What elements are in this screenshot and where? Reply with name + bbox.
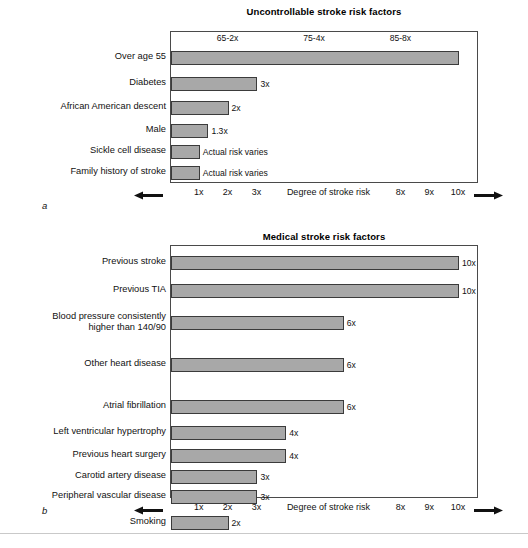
axis-tick-label: 3x	[252, 187, 262, 197]
axis-tick-label: 1x	[194, 187, 204, 197]
chart-a-axis: 1x2x3x8x9x10xDegree of stroke risk	[0, 187, 528, 203]
axis-right-arrow-icon	[473, 506, 503, 514]
bar-value-label: 1.3x	[208, 126, 227, 136]
bar-row: 6x	[171, 358, 477, 372]
axis-right-arrow-icon	[473, 191, 503, 199]
bar-row: 4x	[171, 426, 477, 440]
bar	[171, 101, 229, 115]
bar-value-label: 2x	[229, 518, 241, 528]
bar-row: Actual risk varies	[171, 166, 477, 180]
bar-value-label: 4x	[286, 428, 298, 438]
panel-a-letter: a	[42, 200, 47, 211]
category-label: Left ventricular hypertrophy	[2, 426, 166, 437]
bar-value-label: 6x	[344, 318, 356, 328]
chart-a-plot-area: 3x2x1.3xActual risk variesActual risk va…	[170, 31, 478, 183]
category-label: Blood pressure consistentlyhigher than 1…	[2, 311, 166, 334]
bar-value-label: 4x	[286, 451, 298, 461]
bar-row	[171, 51, 477, 65]
category-label: Other heart disease	[2, 358, 166, 369]
bar-row: 3x	[171, 470, 477, 484]
category-label: Previous heart surgery	[2, 449, 166, 460]
category-label: Carotid artery disease	[2, 470, 166, 481]
axis-title: Degree of stroke risk	[287, 502, 370, 512]
bar-value-label: 10x	[459, 258, 476, 268]
chart-a-bars: 3x2x1.3xActual risk variesActual risk va…	[171, 32, 477, 182]
bar	[171, 77, 257, 91]
bar	[171, 470, 257, 484]
caption-divider	[0, 533, 528, 534]
panel-b-letter: b	[42, 505, 47, 516]
axis-left-arrow-icon	[134, 506, 164, 514]
top-axis-annotation: 85-8x	[390, 33, 412, 43]
bar-value-label: 6x	[344, 360, 356, 370]
category-label: Sickle cell disease	[2, 145, 166, 156]
axis-tick-label: 9x	[424, 187, 434, 197]
category-label: Family history of stroke	[2, 166, 166, 177]
category-label: Previous stroke	[2, 256, 166, 267]
bar-row: 2x	[171, 101, 477, 115]
stroke-risk-figure: Uncontrollable stroke risk factors 3x2x1…	[0, 0, 528, 548]
chart-a-title: Uncontrollable stroke risk factors	[170, 6, 478, 17]
bar	[171, 316, 344, 330]
bar-row: 1.3x	[171, 124, 477, 138]
chart-b-axis: 1x2x3x8x9x10xDegree of stroke risk	[0, 502, 528, 518]
category-label: Previous TIA	[2, 284, 166, 295]
axis-tick-label: 8x	[396, 502, 406, 512]
chart-b-plot-area: 10x10x6x6x6x4x4x3x3x2x	[170, 245, 478, 498]
bar-row: 6x	[171, 316, 477, 330]
axis-tick-label: 10x	[451, 187, 466, 197]
bar	[171, 166, 200, 180]
axis-left-arrow-icon	[134, 191, 164, 199]
bar	[171, 124, 208, 138]
bar-row: 4x	[171, 449, 477, 463]
bar-row: 6x	[171, 400, 477, 414]
bar-value-label: 6x	[344, 402, 356, 412]
axis-tick-label: 1x	[194, 502, 204, 512]
bar	[171, 400, 344, 414]
axis-title: Degree of stroke risk	[287, 187, 370, 197]
category-label: Diabetes	[2, 77, 166, 88]
bar	[171, 256, 459, 270]
bar	[171, 284, 459, 298]
bar-row: 10x	[171, 284, 477, 298]
bar	[171, 449, 286, 463]
bar	[171, 358, 344, 372]
axis-tick-label: 3x	[252, 502, 262, 512]
chart-b-bars: 10x10x6x6x6x4x4x3x3x2x	[171, 246, 477, 497]
bar-value-label: 3x	[257, 492, 269, 502]
category-label: Over age 55	[2, 51, 166, 62]
bar-row: 2x	[171, 516, 477, 530]
chart-b-title: Medical stroke risk factors	[170, 231, 478, 242]
axis-tick-label: 9x	[424, 502, 434, 512]
bar-row: Actual risk varies	[171, 145, 477, 159]
bar-value-label: 10x	[459, 286, 476, 296]
top-axis-annotation: 65-2x	[217, 33, 239, 43]
category-label: Atrial fibrillation	[2, 400, 166, 411]
bar	[171, 516, 229, 530]
axis-tick-label: 2x	[223, 187, 233, 197]
category-label: Peripheral vascular disease	[2, 490, 166, 501]
axis-tick-label: 2x	[223, 502, 233, 512]
bar-value-label: Actual risk varies	[200, 168, 268, 178]
bar	[171, 51, 459, 65]
category-label: Smoking	[2, 516, 166, 527]
bar	[171, 426, 286, 440]
bar-value-label: 3x	[257, 472, 269, 482]
category-label: African American descent	[2, 101, 166, 112]
bar-value-label: 2x	[229, 103, 241, 113]
top-axis-annotation: 75-4x	[303, 33, 325, 43]
bar-value-label: 3x	[257, 79, 269, 89]
axis-tick-label: 8x	[396, 187, 406, 197]
axis-tick-label: 10x	[451, 502, 466, 512]
bar-value-label: Actual risk varies	[200, 147, 268, 157]
bar-row: 10x	[171, 256, 477, 270]
category-label: Male	[2, 124, 166, 135]
bar	[171, 145, 200, 159]
bar-row: 3x	[171, 77, 477, 91]
